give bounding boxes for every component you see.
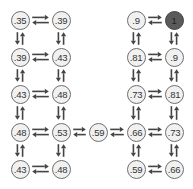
arrow-icon <box>110 132 124 137</box>
state-value: .43 <box>14 164 27 175</box>
arrow-icon <box>148 15 162 20</box>
arrow-icon <box>148 89 162 94</box>
arrow-icon <box>32 15 49 20</box>
state-node: .43 <box>11 85 30 104</box>
state-value: .73 <box>168 127 181 138</box>
state-value: .39 <box>14 52 27 63</box>
arrow-icon <box>32 132 49 137</box>
state-value: .48 <box>55 89 68 100</box>
arrow-icon <box>20 106 25 120</box>
state-value: .43 <box>55 52 68 63</box>
arrow-icon <box>169 144 174 157</box>
arrow-icon <box>73 127 86 132</box>
arrow-icon <box>32 20 49 25</box>
arrow-icon <box>136 144 141 157</box>
arrow-icon <box>148 94 162 99</box>
arrow-icon <box>32 57 49 62</box>
arrow-icon <box>20 32 25 45</box>
arrow-icon <box>174 144 179 157</box>
state-value: .43 <box>14 89 27 100</box>
grid-world-diagram: .35.39.39.43.43.48.48.53.43.48.59.91.81.… <box>0 0 193 189</box>
state-value: .9 <box>132 15 140 26</box>
arrow-icon <box>131 106 136 120</box>
arrow-icon <box>56 144 61 157</box>
arrow-icon <box>20 69 25 82</box>
arrow-icon <box>136 106 141 120</box>
arrow-icon <box>174 32 179 45</box>
arrow-icon <box>131 144 136 157</box>
state-value: .53 <box>55 127 68 138</box>
arrow-icon <box>61 144 66 157</box>
arrow-icon <box>169 32 174 45</box>
state-node: .59 <box>89 123 108 142</box>
state-node: .73 <box>165 123 184 142</box>
state-node: .43 <box>52 48 71 67</box>
arrow-icon <box>15 32 20 45</box>
state-node: .39 <box>52 11 71 30</box>
state-node: .9 <box>127 11 146 30</box>
arrow-icon <box>73 132 86 137</box>
arrow-icon <box>148 132 162 137</box>
arrow-icon <box>136 32 141 45</box>
arrow-icon <box>148 52 162 57</box>
arrow-icon <box>32 94 49 99</box>
state-value: .66 <box>168 164 181 175</box>
arrow-icon <box>148 164 162 169</box>
arrow-icon <box>61 106 66 120</box>
arrow-icon <box>169 69 174 82</box>
arrow-icon <box>61 69 66 82</box>
arrow-icon <box>15 144 20 157</box>
state-node: .43 <box>11 160 30 179</box>
goal-state-node: 1 <box>165 11 184 30</box>
state-node: .73 <box>127 85 146 104</box>
state-node: .48 <box>52 160 71 179</box>
arrow-icon <box>20 144 25 157</box>
arrow-icon <box>56 106 61 120</box>
arrow-icon <box>148 169 162 174</box>
arrow-icon <box>148 57 162 62</box>
arrow-icon <box>110 127 124 132</box>
arrow-icon <box>32 89 49 94</box>
state-node: .39 <box>11 48 30 67</box>
state-node: .59 <box>127 160 146 179</box>
state-value: .81 <box>168 89 181 100</box>
arrow-icon <box>174 69 179 82</box>
arrow-icon <box>32 169 49 174</box>
state-node: .66 <box>127 123 146 142</box>
state-node: .81 <box>127 48 146 67</box>
state-value: .9 <box>170 52 178 63</box>
state-node: .48 <box>52 85 71 104</box>
arrow-icon <box>61 32 66 45</box>
state-node: .48 <box>11 123 30 142</box>
state-value: .59 <box>92 127 105 138</box>
state-value: .59 <box>130 164 143 175</box>
arrow-icon <box>174 106 179 120</box>
state-value: .66 <box>130 127 143 138</box>
arrow-icon <box>136 69 141 82</box>
state-node: .9 <box>165 48 184 67</box>
state-node: .66 <box>165 160 184 179</box>
state-value: .48 <box>55 164 68 175</box>
arrow-icon <box>131 32 136 45</box>
arrow-icon <box>32 52 49 57</box>
state-node: .35 <box>11 11 30 30</box>
state-value: .73 <box>130 89 143 100</box>
state-value: .35 <box>14 15 27 26</box>
state-value: .48 <box>14 127 27 138</box>
arrow-icon <box>148 127 162 132</box>
arrow-icon <box>32 164 49 169</box>
state-value: .39 <box>55 15 68 26</box>
arrow-icon <box>56 32 61 45</box>
state-value: 1 <box>171 15 176 26</box>
arrow-icon <box>15 106 20 120</box>
arrow-icon <box>56 69 61 82</box>
state-node: .53 <box>52 123 71 142</box>
arrow-icon <box>15 69 20 82</box>
state-node: .81 <box>165 85 184 104</box>
arrow-icon <box>148 20 162 25</box>
arrow-icon <box>169 106 174 120</box>
state-value: .81 <box>130 52 143 63</box>
arrow-icon <box>131 69 136 82</box>
arrow-icon <box>32 127 49 132</box>
